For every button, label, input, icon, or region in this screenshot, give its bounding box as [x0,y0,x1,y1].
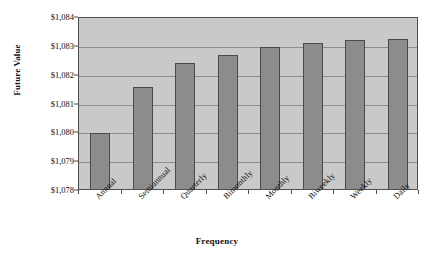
x-axis-tick-mark [121,190,122,194]
gridline [79,162,417,163]
y-axis-tick-mark [74,103,78,104]
x-axis-tick-mark [206,190,207,194]
bar [303,43,323,191]
y-axis-tick-label: $1,078 [28,185,74,195]
y-axis-tick-label: $1,084 [28,12,74,22]
bar-chart: Future Value $1,078$1,079$1,080$1,081$1,… [0,0,434,258]
gridline [79,133,417,134]
x-axis-tick-mark [291,190,292,194]
bar [260,47,280,190]
y-axis-tick-mark [74,45,78,46]
gridline [79,76,417,77]
x-axis-tick-mark [376,190,377,194]
bar [133,87,153,190]
x-axis-tick-mark [248,190,249,194]
bar [218,55,238,190]
bar [345,40,365,190]
x-axis-category-labels: AnnualSemiannualQuarterlyBimonthlyMonthl… [78,190,418,236]
gridline [79,47,417,48]
x-axis-tick-mark [418,190,419,194]
y-axis-tick-label: $1,080 [28,127,74,137]
y-axis-tick-labels: $1,078$1,079$1,080$1,081$1,082$1,083$1,0… [28,17,74,190]
y-axis-tick-label: $1,083 [28,41,74,51]
y-axis-tick-mark [74,17,78,18]
gridline [79,105,417,106]
y-axis-tick-label: $1,081 [28,99,74,109]
bar [175,63,195,190]
plot-area [78,17,418,190]
y-axis-tick-mark [74,132,78,133]
y-axis-tick-label: $1,082 [28,70,74,80]
x-axis-tick-mark [333,190,334,194]
y-axis-tick-label: $1,079 [28,156,74,166]
y-axis-tick-mark [74,74,78,75]
x-axis-tick-mark [78,190,79,194]
bar [388,39,408,190]
y-axis-tick-mark [74,161,78,162]
x-axis-tick-mark [163,190,164,194]
x-axis-title: Frequency [0,236,434,246]
y-axis-title: Future Value [12,20,22,120]
